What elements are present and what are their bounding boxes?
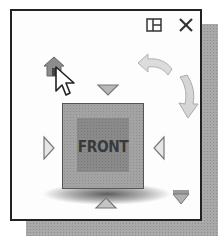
- viewcube-window: FRONT: [10, 9, 202, 221]
- rotate-clockwise-arrow-icon[interactable]: [172, 74, 200, 120]
- view-right-arrow-icon[interactable]: [152, 135, 166, 161]
- cube-face-label: FRONT: [66, 138, 140, 156]
- view-top-arrow-icon[interactable]: [96, 83, 120, 97]
- view-bottom-arrow-icon[interactable]: [94, 196, 118, 210]
- close-icon[interactable]: [178, 17, 194, 33]
- viewcube-panel-stage: FRONT: [0, 0, 222, 239]
- mouse-pointer-cursor-icon: [54, 65, 76, 99]
- viewcube-front-face[interactable]: FRONT: [62, 103, 144, 189]
- window-layout-icon[interactable]: [146, 18, 162, 32]
- view-corner-arrow-icon[interactable]: [171, 187, 191, 207]
- rotate-counterclockwise-arrow-icon[interactable]: [134, 51, 176, 81]
- view-left-arrow-icon[interactable]: [42, 135, 56, 161]
